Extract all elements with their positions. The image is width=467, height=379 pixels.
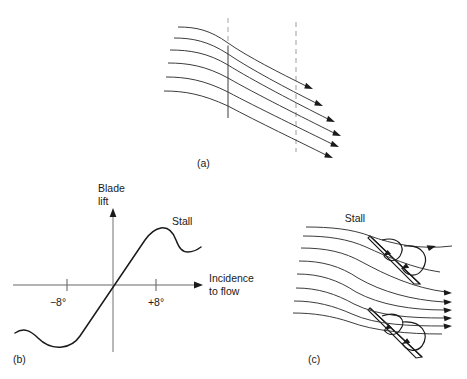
- flow-arrowhead: [303, 83, 314, 92]
- x-axis-label-line2: to flow: [209, 285, 240, 297]
- panel-c-caption: (c): [308, 353, 320, 365]
- lift-curve: [15, 228, 201, 347]
- panel-a: (a): [164, 18, 342, 169]
- figure-canvas: (a) Blade lift Incidence to flow −8° +8°…: [0, 0, 467, 379]
- y-axis-label-line2: lift: [98, 195, 109, 207]
- flow-arrowhead: [331, 130, 342, 139]
- flow-arrowhead: [313, 100, 324, 109]
- streamline: [170, 50, 328, 119]
- panel-c: Stall (c): [293, 212, 452, 365]
- arrowhead-group-a: [303, 83, 342, 161]
- panel-b-caption: (b): [13, 353, 26, 365]
- flow-arrowhead: [329, 141, 340, 150]
- streamline: [174, 38, 316, 103]
- x-tick-label-minus8: −8°: [50, 296, 66, 308]
- y-axis-label-line1: Blade: [98, 182, 125, 194]
- stall-annotation-b: Stall: [172, 215, 192, 227]
- stall-annotation-c: Stall: [345, 212, 365, 224]
- flow-arrowhead: [444, 324, 453, 330]
- y-axis-arrowhead: [110, 208, 117, 217]
- panel-a-caption: (a): [197, 157, 210, 169]
- flow-arrowhead: [444, 308, 453, 314]
- blade-group: [368, 236, 422, 358]
- figure-blade-stall: (a) Blade lift Incidence to flow −8° +8°…: [0, 0, 467, 379]
- streamline: [297, 274, 444, 310]
- flow-arrowhead: [444, 316, 453, 322]
- streamline: [293, 313, 442, 334]
- streamline: [178, 27, 306, 86]
- vortex-arrowhead-group-lower: [383, 323, 411, 346]
- streamline-group-a: [164, 27, 334, 155]
- x-tick-label-plus8: +8°: [148, 296, 164, 308]
- flow-arrowhead: [325, 116, 336, 125]
- panel-b: Blade lift Incidence to flow −8° +8° Sta…: [13, 182, 254, 365]
- flow-arrowhead: [323, 152, 334, 161]
- streamline: [168, 63, 334, 133]
- flow-arrowhead: [443, 290, 452, 296]
- x-axis-arrowhead: [194, 282, 203, 289]
- streamline: [294, 301, 444, 326]
- flow-arrowhead: [443, 299, 452, 305]
- x-axis-label-line1: Incidence: [209, 272, 254, 284]
- exit-arrowhead-group: [427, 243, 453, 329]
